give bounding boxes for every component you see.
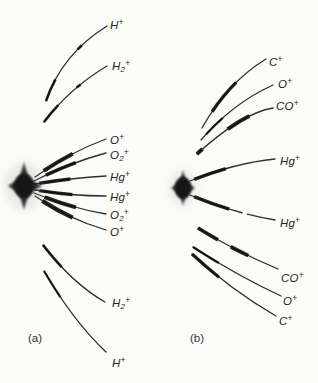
ion-sup: + [295, 215, 300, 225]
ion-sup: + [125, 169, 130, 179]
beam-spot-b-core [175, 177, 192, 199]
trace-a-h2-lower [43, 245, 105, 302]
ion-base: CO [281, 272, 299, 284]
ion-sup: + [119, 132, 124, 142]
ion-label-b-c-upper: C+ [269, 52, 283, 69]
streak-a-h-upper [46, 26, 107, 101]
panel-a-caption: (a) [28, 331, 42, 346]
beam-spot-a-core [14, 174, 34, 198]
ion-sup: + [294, 98, 299, 108]
ion-base: Hg [110, 191, 125, 203]
ion-label-a-h-lower: H+ [112, 353, 126, 374]
ion-base: O [278, 78, 287, 90]
ion-base: C [279, 315, 288, 327]
ion-base: CO [276, 100, 294, 112]
streak-b-o-lower [193, 247, 281, 296]
ion-label-a-h-upper: H+ [110, 15, 124, 36]
ion-label-b-o-lower: O+ [283, 291, 297, 308]
ion-sup: + [299, 270, 304, 280]
ion-sup: + [119, 17, 124, 27]
ion-label-a-o2-upper: O2+ [110, 145, 129, 166]
ion-sup: + [125, 295, 130, 305]
ion-base: O [283, 295, 292, 307]
streak-a-hg-lower [35, 190, 106, 196]
ion-base: O [110, 226, 119, 238]
beam-spot-a [4, 162, 44, 210]
ion-base: C [269, 56, 278, 68]
ion-sup: + [292, 293, 297, 303]
ion-sup: + [125, 58, 130, 68]
ion-sup: + [119, 224, 124, 234]
ion-base: Hg [280, 155, 295, 167]
ion-label-a-hg-upper: Hg+ [110, 167, 130, 188]
ion-label-a-h2-upper: H2+ [112, 56, 130, 77]
ion-sup: + [121, 355, 126, 365]
ion-base: O [110, 149, 119, 161]
streak-b-hg-lower [190, 195, 275, 220]
ion-base: H [110, 19, 119, 31]
trace-a-h-upper [46, 26, 107, 101]
ion-base: Hg [110, 171, 125, 183]
panel-b-caption: (b) [190, 331, 204, 346]
ion-label-b-hg-upper: Hg+ [280, 151, 300, 168]
trace-a-h-lower [44, 271, 106, 352]
ion-base: Hg [280, 217, 295, 229]
streak-b-co-lower [198, 228, 278, 269]
ion-label-b-hg-lower: Hg+ [280, 213, 300, 230]
streak-a-o-lower [35, 196, 106, 230]
ion-label-b-c-lower: C+ [279, 311, 293, 328]
streak-a-o-upper [35, 139, 106, 177]
streak-a-h2-upper [44, 66, 107, 122]
ion-base: O [110, 209, 119, 221]
beam-spot-b [168, 169, 198, 207]
trace-a-h2-upper [44, 66, 107, 122]
ion-sup: + [278, 54, 283, 64]
ion-base: H [112, 60, 121, 72]
ion-base: H [112, 357, 121, 369]
streak-a-h2-lower [43, 245, 105, 302]
traces-layer [34, 26, 281, 352]
ion-sup: + [125, 189, 130, 199]
ion-sup: + [295, 153, 300, 163]
ion-base: O [110, 134, 119, 146]
ion-base: H [112, 297, 121, 309]
ion-label-a-h2-lower: H2+ [112, 293, 130, 314]
ion-label-b-co-lower: CO+ [281, 268, 304, 285]
ion-label-b-o-upper: O+ [278, 74, 292, 91]
streak-a-h-lower [44, 271, 106, 352]
ion-sup: + [287, 76, 292, 86]
ion-sup: + [124, 147, 129, 157]
figure-page: H+ H2+ O+ O2+ Hg+ Hg+ O2+ O+ H2+ H+ C+ O… [0, 0, 318, 383]
ion-sup: + [124, 207, 129, 217]
ion-sup: + [288, 313, 293, 323]
ion-label-b-co-upper: CO+ [276, 96, 299, 113]
streak-b-hg-upper [190, 159, 275, 181]
ion-label-a-o-lower: O+ [110, 222, 124, 243]
